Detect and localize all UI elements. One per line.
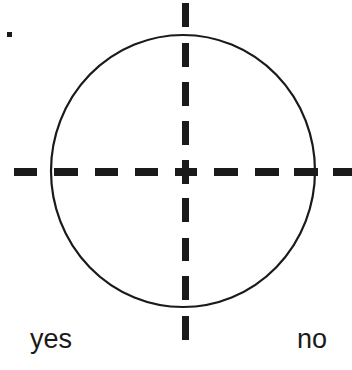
- vertical-dashed-axis: [182, 3, 189, 340]
- dot-mark: [7, 32, 12, 37]
- circle-with-dashed-axes: [0, 0, 352, 370]
- label-yes: yes: [30, 326, 72, 353]
- label-no: no: [297, 326, 327, 353]
